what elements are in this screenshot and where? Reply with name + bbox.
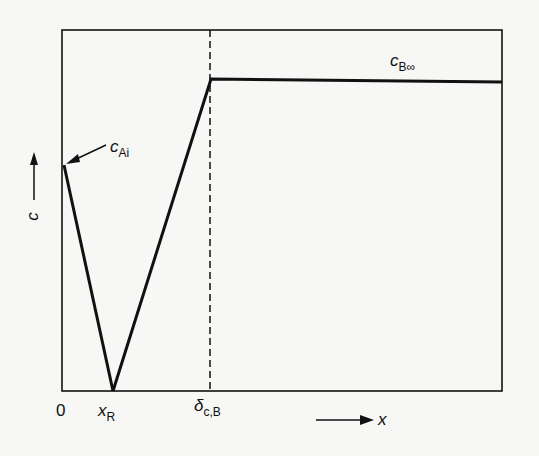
concentration-b-line [113, 79, 502, 391]
plot-frame [62, 30, 502, 391]
cbinf-label: cB∞ [390, 52, 415, 69]
concentration-a-line [64, 165, 113, 391]
xr-label: xR [98, 402, 115, 419]
cai-arrowhead-icon [66, 154, 80, 164]
delta-label: δc,B [194, 397, 221, 414]
y-arrowhead-icon [30, 152, 38, 165]
origin-label: 0 [56, 402, 65, 419]
x-arrowhead-icon [360, 415, 374, 425]
y-axis-label: c [24, 212, 41, 221]
x-axis-label: x [378, 411, 387, 428]
cai-label: cAi [110, 138, 129, 155]
diagram-canvas [0, 0, 539, 456]
